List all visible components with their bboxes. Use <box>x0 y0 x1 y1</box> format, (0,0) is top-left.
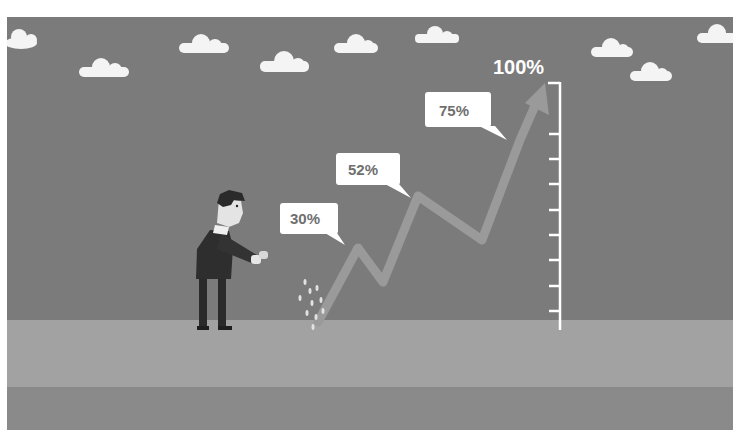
cloud-icon <box>7 29 37 49</box>
clouds <box>7 24 733 81</box>
bubble-30: 30% <box>280 203 345 245</box>
bubble-52: 52% <box>336 153 411 198</box>
svg-text:75%: 75% <box>439 102 469 119</box>
cloud-icon <box>697 24 733 43</box>
bubble-75: 75% <box>425 92 507 140</box>
cloud-icon <box>591 38 633 57</box>
cloud-icon <box>179 34 229 53</box>
svg-text:52%: 52% <box>348 161 378 178</box>
illustration-svg: 100% 30% 52% 75% <box>7 17 733 430</box>
businessman-figure <box>196 190 268 330</box>
illustration-scene: 100% 30% 52% 75% <box>7 17 733 430</box>
cloud-icon <box>260 51 309 72</box>
cloud-icon <box>79 58 129 77</box>
axis-top-label: 100% <box>493 56 544 78</box>
percentage-axis <box>548 82 560 330</box>
svg-text:30%: 30% <box>290 210 320 227</box>
cloud-icon <box>630 62 672 81</box>
cloud-icon <box>334 34 378 53</box>
cloud-icon <box>415 26 459 43</box>
